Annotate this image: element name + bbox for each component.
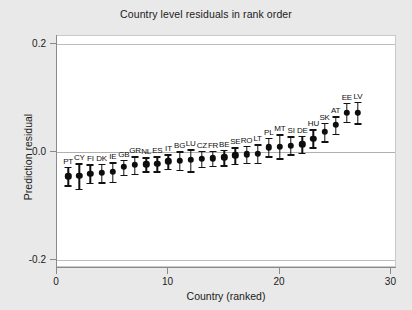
chart-figure: Country level residuals in rank order PT…: [0, 0, 412, 310]
point-label-PL: PL: [264, 128, 273, 137]
data-point[interactable]: [232, 152, 238, 158]
error-bar-cap-lower: [76, 189, 83, 190]
data-point[interactable]: [321, 129, 327, 135]
chart-title: Country level residuals in rank order: [0, 8, 412, 20]
error-bar-cap-upper: [187, 149, 194, 150]
error-bar-cap-lower: [87, 183, 94, 184]
error-bar-cap-lower: [221, 165, 228, 166]
error-bar-cap-upper: [87, 164, 94, 165]
error-bar-cap-upper: [354, 102, 361, 103]
data-point[interactable]: [299, 141, 305, 147]
data-point[interactable]: [355, 109, 361, 115]
point-label-RO: RO: [241, 136, 253, 145]
error-bar-cap-upper: [154, 156, 161, 157]
error-bar-cap-upper: [343, 103, 350, 104]
point-label-HU: HU: [308, 119, 319, 128]
error-bar-cap-lower: [321, 141, 328, 142]
error-bar-cap-lower: [299, 153, 306, 154]
data-point[interactable]: [254, 150, 260, 156]
x-tick-label: 10: [162, 276, 173, 287]
residual-series: PTCYFIDKIEGBGRNLESITBGLUCZFRBESEROLTPLMT…: [57, 36, 395, 266]
error-bar-cap-upper: [98, 164, 105, 165]
data-point[interactable]: [132, 162, 138, 168]
error-bar-cap-lower: [65, 185, 72, 186]
point-label-IT: IT: [165, 144, 172, 153]
x-tick: [390, 268, 391, 274]
data-point[interactable]: [277, 143, 283, 149]
error-bar-cap-lower: [265, 156, 272, 157]
point-label-PT: PT: [63, 157, 73, 166]
point-label-DE: DE: [297, 126, 308, 135]
error-bar-cap-upper: [120, 160, 127, 161]
error-bar-cap-upper: [221, 150, 228, 151]
data-point[interactable]: [98, 170, 104, 176]
error-bar-cap-upper: [109, 162, 116, 163]
data-point[interactable]: [221, 154, 227, 160]
y-tick: [50, 151, 56, 152]
data-point[interactable]: [143, 161, 149, 167]
point-label-BG: BG: [174, 141, 185, 150]
x-tick-label: 20: [273, 276, 284, 287]
x-tick: [279, 268, 280, 274]
error-bar-cap-upper: [198, 151, 205, 152]
error-bar-cap-lower: [232, 164, 239, 165]
data-point[interactable]: [87, 170, 93, 176]
error-bar-cap-upper: [288, 136, 295, 137]
error-bar-cap-upper: [276, 134, 283, 135]
data-point[interactable]: [110, 169, 116, 175]
point-label-LV: LV: [354, 92, 363, 101]
data-point[interactable]: [188, 157, 194, 163]
error-bar-cap-upper: [210, 151, 217, 152]
point-label-MT: MT: [274, 124, 285, 133]
data-point[interactable]: [210, 155, 216, 161]
error-bar-cap-upper: [176, 151, 183, 152]
x-axis-line: [56, 267, 396, 268]
error-bar-cap-lower: [243, 163, 250, 164]
error-bar-cap-upper: [65, 167, 72, 168]
point-label-IE: IE: [109, 152, 116, 161]
point-label-EE: EE: [342, 93, 352, 102]
point-label-GB: GB: [118, 150, 129, 159]
point-label-FR: FR: [208, 141, 218, 150]
y-tick: [50, 259, 56, 260]
data-point[interactable]: [243, 151, 249, 157]
error-bar-cap-lower: [198, 167, 205, 168]
data-point[interactable]: [288, 142, 294, 148]
error-bar-cap-lower: [254, 163, 261, 164]
x-tick: [56, 268, 57, 274]
plot-area: PTCYFIDKIEGBGRNLESITBGLUCZFRBESEROLTPLMT…: [56, 35, 396, 267]
error-bar-cap-upper: [299, 136, 306, 137]
x-axis-title: Country (ranked): [56, 290, 396, 302]
error-bar-cap-lower: [343, 122, 350, 123]
data-point[interactable]: [176, 157, 182, 163]
error-bar-cap-lower: [120, 175, 127, 176]
data-point[interactable]: [332, 122, 338, 128]
error-bar-cap-lower: [210, 166, 217, 167]
x-tick-label: 30: [385, 276, 396, 287]
error-bar-cap-upper: [165, 154, 172, 155]
data-point[interactable]: [344, 109, 350, 115]
y-tick: [50, 43, 56, 44]
error-bar-cap-lower: [288, 154, 295, 155]
error-bar-cap-upper: [254, 144, 261, 145]
data-point[interactable]: [310, 135, 316, 141]
error-bar-cap-lower: [176, 170, 183, 171]
data-point[interactable]: [199, 156, 205, 162]
error-bar-cap-upper: [310, 129, 317, 130]
error-bar-cap-upper: [243, 146, 250, 147]
point-label-LT: LT: [253, 134, 261, 143]
data-point[interactable]: [165, 158, 171, 164]
data-point[interactable]: [76, 173, 82, 179]
error-bar-cap-lower: [143, 171, 150, 172]
point-label-GR: GR: [129, 146, 141, 155]
point-label-ES: ES: [152, 146, 162, 155]
data-point[interactable]: [121, 164, 127, 170]
error-bar-cap-lower: [132, 174, 139, 175]
error-bar-cap-lower: [187, 171, 194, 172]
data-point[interactable]: [154, 161, 160, 167]
error-bar-cap-lower: [276, 158, 283, 159]
error-bar-cap-lower: [310, 147, 317, 148]
data-point[interactable]: [65, 173, 71, 179]
point-label-SI: SI: [288, 126, 295, 135]
data-point[interactable]: [266, 144, 272, 150]
